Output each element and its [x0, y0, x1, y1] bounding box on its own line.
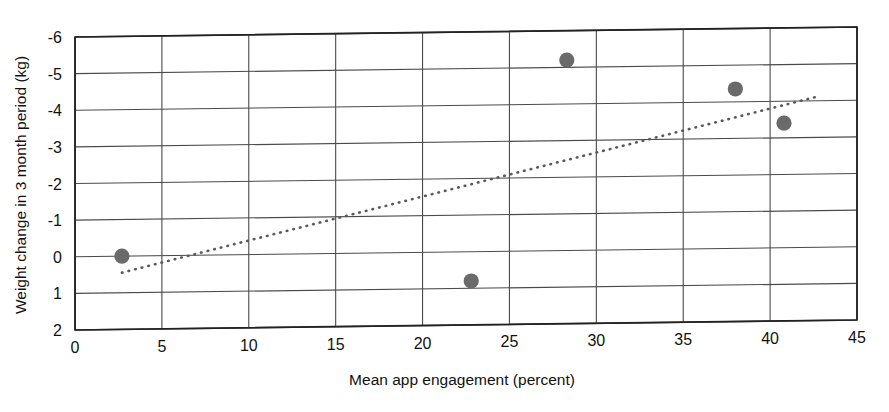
- y-tick-label: -4: [48, 102, 62, 119]
- data-point-marker: [559, 52, 574, 67]
- x-tick-label: 30: [587, 332, 605, 349]
- x-tick-label: 5: [157, 338, 166, 355]
- y-tick-label: -1: [48, 212, 62, 229]
- x-tick-label: 15: [327, 336, 345, 353]
- x-tick-label: 40: [761, 330, 779, 347]
- data-point-marker: [728, 81, 743, 96]
- x-tick-label: 0: [71, 339, 80, 356]
- x-tick-label: 10: [240, 337, 258, 354]
- y-tick-label: 1: [53, 285, 62, 302]
- data-point-marker: [776, 116, 791, 131]
- x-tick-label: 45: [848, 329, 866, 346]
- y-tick-label: -6: [48, 29, 62, 46]
- y-tick-label: 2: [53, 322, 62, 339]
- x-axis-label: Mean app engagement (percent): [349, 371, 575, 388]
- y-tick-label: -3: [48, 139, 62, 156]
- y-tick-label: -2: [48, 176, 62, 193]
- x-tick-label: 20: [414, 335, 432, 352]
- plot-background: [0, 0, 889, 412]
- y-axis-label: Weight change in 3 month period (kg): [12, 56, 29, 314]
- y-tick-label: -5: [48, 66, 62, 83]
- data-point-marker: [464, 273, 479, 288]
- scatter-plot-svg: 051015202530354045 -6-5-4-3-2-1012 Mean …: [0, 0, 889, 412]
- y-tick-label: 0: [53, 249, 62, 266]
- x-tick-label: 35: [674, 331, 692, 348]
- chart-figure: 051015202530354045 -6-5-4-3-2-1012 Mean …: [0, 0, 889, 412]
- x-tick-label: 25: [501, 333, 519, 350]
- data-point-marker: [114, 249, 129, 264]
